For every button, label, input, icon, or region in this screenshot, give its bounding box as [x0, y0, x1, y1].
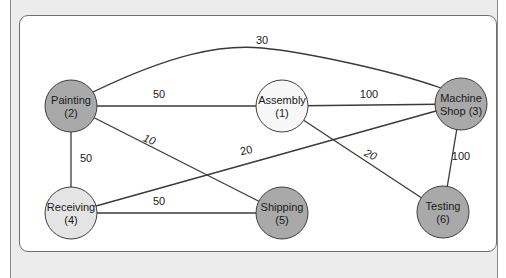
node-number: (2): [64, 107, 77, 119]
node-circle: [45, 80, 97, 132]
edge-weight-4-3: 20: [239, 143, 253, 157]
edge-2-5: [71, 106, 282, 213]
node-number: (5): [275, 214, 288, 226]
edge-1-3: [282, 104, 461, 106]
edge-weight-3-6: 100: [452, 150, 470, 162]
node-name: Receiving: [47, 201, 95, 213]
node-testing: Testing(6): [417, 186, 469, 238]
node-name: Shipping: [261, 201, 304, 213]
node-assembly: Assembly(1): [256, 80, 308, 132]
node-number: (1): [275, 107, 288, 119]
node-name: Testing: [426, 200, 461, 212]
node-circle: [417, 186, 469, 238]
edges-layer: [71, 47, 461, 213]
node-number: (6): [436, 213, 449, 225]
node-circle: [256, 80, 308, 132]
edge-weight-2-4: 50: [80, 152, 92, 164]
edge-weight-2-5: 10: [142, 131, 159, 147]
node-circle: [435, 78, 487, 130]
edge-weight-1-3: 100: [360, 88, 378, 100]
node-number: (4): [64, 214, 77, 226]
node-name: Assembly: [258, 94, 306, 106]
node-circle: [256, 187, 308, 239]
process-flow-diagram: 30501005010202010050 Assembly(1)Painting…: [0, 0, 506, 278]
node-receiving: Receiving(4): [45, 187, 97, 239]
node-painting: Painting(2): [45, 80, 97, 132]
node-name: Painting: [51, 94, 91, 106]
edge-weight-2-1: 50: [153, 88, 165, 100]
node-name: Machine: [440, 92, 482, 104]
edge-weight-2-3: 30: [256, 34, 268, 46]
edge-weight-4-5: 50: [153, 195, 165, 207]
node-machine-shop: MachineShop (3): [435, 78, 487, 130]
edge-1-6: [282, 106, 443, 212]
node-shipping: Shipping(5): [256, 187, 308, 239]
node-number: Shop (3): [440, 105, 482, 117]
node-circle: [45, 187, 97, 239]
